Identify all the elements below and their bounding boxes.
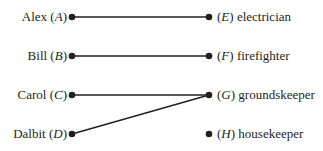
node-label-E: (E) electrician <box>217 9 291 24</box>
node-label-C: Carol (C) <box>18 87 68 102</box>
node-dot-G <box>206 92 213 99</box>
node-dot-A <box>69 14 76 21</box>
node-label-A: Alex (A) <box>22 9 67 24</box>
node-dot-H <box>206 131 213 138</box>
edge-D-G <box>72 95 209 134</box>
node-dot-D <box>69 131 76 138</box>
node-label-D: Dalbit (D) <box>13 126 67 141</box>
node-label-G: (G) groundskeeper <box>217 87 315 102</box>
node-label-B: Bill (B) <box>28 48 67 63</box>
node-dot-B <box>69 53 76 60</box>
node-label-H: (H) housekeeper <box>217 126 303 141</box>
node-label-F: (F) firefighter <box>217 48 290 63</box>
node-dot-F <box>206 53 213 60</box>
node-dot-E <box>206 14 213 21</box>
node-dot-C <box>69 92 76 99</box>
